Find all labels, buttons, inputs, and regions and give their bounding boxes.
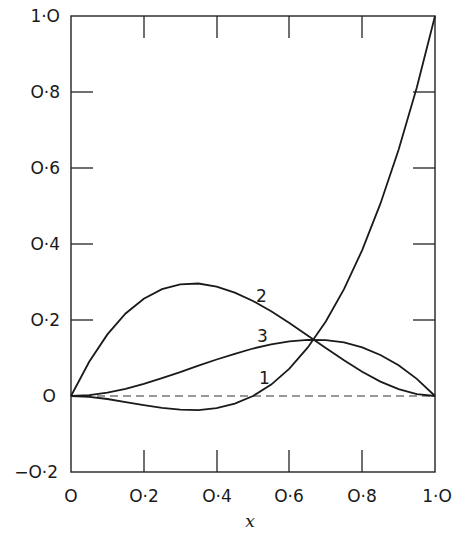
- y-ticks-left: [71, 92, 93, 320]
- x-ticks-top: [144, 16, 362, 38]
- y-tick-label-0: O: [43, 386, 56, 406]
- curve-1: [71, 16, 435, 410]
- y-tick-label-1.0: 1·O: [30, 6, 60, 26]
- curve-1-label: 1: [259, 368, 270, 388]
- curve-3-label: 3: [257, 326, 268, 346]
- curve-2-label: 2: [256, 286, 267, 306]
- x-tick-label-1.0: 1·O: [422, 486, 452, 506]
- y-tick-label-0.6: O·6: [30, 158, 60, 178]
- curve-2: [71, 284, 435, 397]
- x-axis-title: x: [245, 511, 255, 531]
- x-tick-label-0: O: [64, 486, 77, 506]
- y-tick-label-0.2: O·2: [30, 310, 60, 330]
- x-tick-label-0.4: O·4: [202, 486, 232, 506]
- curve-3: [71, 340, 435, 396]
- y-ticks-right: [413, 92, 435, 320]
- chart: 2 3 1 1·O O·8 O·6 O·4 O·2 O −O·2 O O·2 O…: [0, 0, 461, 539]
- y-tick-label-0.8: O·8: [30, 82, 60, 102]
- x-tick-label-0.8: O·8: [347, 486, 377, 506]
- y-tick-label-neg-0.2: −O·2: [14, 462, 58, 482]
- x-ticks-bottom: [144, 450, 362, 472]
- x-tick-label-0.6: O·6: [274, 486, 304, 506]
- plot-frame: [71, 16, 435, 472]
- y-tick-label-0.4: O·4: [30, 234, 60, 254]
- x-tick-label-0.2: O·2: [129, 486, 159, 506]
